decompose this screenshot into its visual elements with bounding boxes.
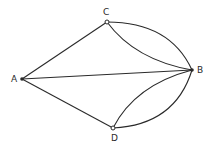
edge-c-b-outer: [107, 22, 192, 70]
node-b: [190, 68, 194, 72]
label-c: C: [103, 7, 109, 17]
edges: [22, 22, 192, 128]
edge-a-b: [22, 70, 192, 79]
label-a: A: [11, 74, 18, 84]
node-a: [20, 77, 24, 81]
node-d: [111, 126, 115, 130]
label-b: B: [197, 65, 203, 75]
edge-a-d: [22, 79, 113, 128]
edge-d-b-outer: [113, 70, 192, 128]
edge-a-c: [22, 22, 107, 79]
node-c: [105, 20, 109, 24]
label-d: D: [111, 133, 118, 143]
graph-canvas: A B C D: [0, 0, 214, 149]
